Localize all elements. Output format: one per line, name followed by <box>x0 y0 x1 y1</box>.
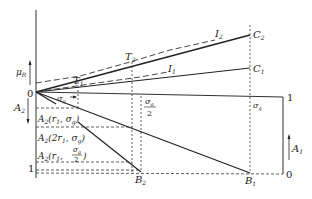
zero-right-label: 0 <box>286 169 292 180</box>
i2-label: I2 <box>214 28 223 40</box>
one-left-label: 1 <box>28 163 34 174</box>
sigma-arrow-head <box>73 96 77 99</box>
origin-label: 0 <box>27 88 33 99</box>
a1-label: A1 <box>291 143 303 155</box>
one-right-label: 1 <box>287 92 293 103</box>
row3-frac-num: σg <box>73 146 81 156</box>
row-label-2: A2(2r1, σg) <box>37 133 85 145</box>
b2-label: B2 <box>134 174 146 186</box>
a2-label: A2 <box>13 102 25 114</box>
t1-label: T1 <box>73 75 84 87</box>
line-c1 <box>36 68 250 92</box>
row3-frac-den: 2 <box>74 156 78 164</box>
mu-label: μR <box>16 67 27 78</box>
sigma-g-left: σg <box>57 94 66 105</box>
a2-arrow-head <box>27 119 30 124</box>
i1-label: I1 <box>167 63 176 75</box>
half-sigma-den: 2 <box>147 109 152 118</box>
c2-label: C2 <box>253 29 265 41</box>
mu-arrow-head <box>29 60 32 65</box>
b1-label: B1 <box>244 175 256 187</box>
half-sigma-num: σg <box>145 97 154 108</box>
row-label-3: A2(r1, <box>37 151 63 162</box>
t2-label: T2 <box>125 51 136 63</box>
sigma-g-right: σg <box>253 101 262 112</box>
line-c2 <box>36 35 250 92</box>
diagram-canvas: μR 0 A2 1 C2 C1 T2 T1 I2 I1 B2 B1 1 0 A1… <box>0 0 312 199</box>
line-b2 <box>78 122 141 172</box>
bottom-dashed <box>36 173 283 174</box>
row3-close: ) <box>82 151 87 161</box>
a1-arrow-head <box>288 134 291 139</box>
c1-label: C1 <box>253 63 264 75</box>
row-label-1: A2(r1, σg) <box>37 114 80 126</box>
